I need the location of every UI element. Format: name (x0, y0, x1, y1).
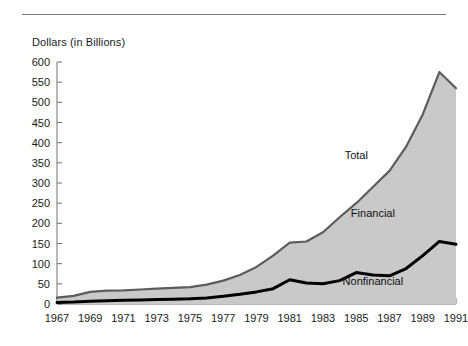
y-tick-label: 300 (32, 177, 50, 189)
x-tick-label: 1975 (178, 312, 202, 324)
series-group (57, 72, 456, 304)
y-tick-label: 400 (32, 137, 50, 149)
x-tick-label: 1989 (411, 312, 435, 324)
y-tick-label: 0 (44, 298, 50, 310)
series-annotation-nonfinancial: Nonfinancial (343, 275, 404, 287)
y-tick-labels: 050100150200250300350400450500550600 (32, 56, 50, 310)
x-tick-label: 1983 (311, 312, 335, 324)
x-tick-label: 1979 (244, 312, 268, 324)
y-tick-label: 200 (32, 217, 50, 229)
x-tick-label: 1977 (211, 312, 235, 324)
y-axis-group: 050100150200250300350400450500550600 (32, 56, 62, 310)
x-tick-label: 1987 (377, 312, 401, 324)
y-tick-label: 500 (32, 96, 50, 108)
y-tick-label: 450 (32, 117, 50, 129)
x-tick-label: 1969 (78, 312, 102, 324)
series-annotation-financial: Financial (351, 207, 395, 219)
series-annotation-total: Total (345, 149, 368, 161)
y-tick-label: 600 (32, 56, 50, 68)
y-tick-label: 550 (32, 76, 50, 88)
x-tick-label: 1971 (111, 312, 135, 324)
x-tick-label: 1985 (344, 312, 368, 324)
y-tick-label: 150 (32, 238, 50, 250)
x-tick-labels: 1967196919711973197519771979198119831985… (45, 312, 468, 324)
x-tick-label: 1967 (45, 312, 69, 324)
y-tick-label: 250 (32, 197, 50, 209)
x-tick-label: 1973 (145, 312, 169, 324)
y-tick-label: 350 (32, 157, 50, 169)
total-area-fill (57, 72, 456, 304)
area-chart-plot: 050100150200250300350400450500550600 196… (0, 0, 468, 346)
x-tick-label: 1981 (278, 312, 302, 324)
x-tick-label: 1991 (444, 312, 468, 324)
y-tick-label: 50 (38, 278, 50, 290)
chart-container: Dollars (in Billions) 050100150200250300… (0, 0, 468, 346)
y-tick-label: 100 (32, 258, 50, 270)
y-tick-marks (57, 62, 62, 304)
